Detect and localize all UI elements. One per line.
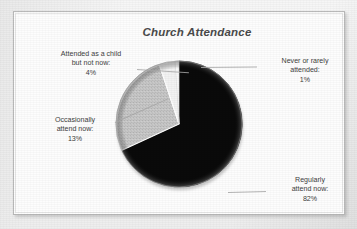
callout-child-line2: but not now: [39, 59, 143, 68]
pie-rim-shading [116, 61, 242, 187]
pie-chart [115, 60, 243, 188]
callout-never-value: 1% [259, 76, 345, 85]
callout-occasionally-attend-now: Occasionally attend now: 13% [34, 116, 116, 144]
chart-title: Church Attendance [14, 26, 344, 38]
callout-never-or-rarely-attended: Never or rarely attended: 1% [259, 57, 345, 85]
callout-never-line1: Never or rarely [259, 57, 345, 66]
chart-panel: Church Attendance [13, 11, 345, 215]
callout-child-value: 4% [39, 69, 143, 78]
callout-regularly-line2: attend now: [266, 185, 345, 194]
callout-occasionally-line2: attend now: [34, 125, 116, 134]
leader-line-regularly-attend [228, 191, 266, 193]
callout-regularly-attend-now: Regularly attend now: 82% [266, 176, 345, 204]
callout-regularly-value: 82% [266, 195, 345, 204]
screenshot-root: Church Attendance [0, 0, 357, 229]
callout-child-line1: Attended as a child [39, 50, 143, 59]
pie-svg [115, 60, 243, 188]
callout-attended-as-a-child: Attended as a child but not now: 4% [39, 50, 143, 78]
callout-occasionally-value: 13% [34, 135, 116, 144]
callout-occasionally-line1: Occasionally [34, 116, 116, 125]
callout-regularly-line1: Regularly [266, 176, 345, 185]
callout-never-line2: attended: [259, 66, 345, 75]
